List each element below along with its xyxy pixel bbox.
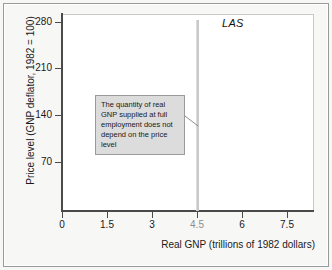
x-axis-tick [242,212,243,218]
figure-panel: 280 210 140 70 0 1.5 3 4.5 6 7.5 Price l… [0,0,332,270]
x-axis-tick-label: 1.5 [87,220,127,230]
y-axis-tick [55,115,61,116]
x-axis-tick [287,212,288,218]
x-axis-tick-label: 3 [132,220,172,230]
x-axis-tick [152,212,153,218]
x-axis-tick-label: 0 [42,220,82,230]
y-axis-tick [55,22,61,23]
x-axis-line [61,210,314,212]
las-curve-label: LAS [222,17,244,29]
callout-box: The quantity of real GNP supplied at ful… [95,95,185,155]
y-axis-tick [55,162,61,163]
callout-leader-line [185,116,198,126]
y-axis-title: Price level (GNP deflator, 1982 = 100) [25,1,36,201]
x-axis-tick-label: 4.5 [177,220,217,230]
y-axis-line [61,13,63,212]
x-axis-tick-label: 7.5 [267,220,307,230]
y-axis-tick [55,68,61,69]
callout-text: The quantity of real GNP supplied at ful… [101,100,179,149]
x-axis-tick [107,212,108,218]
x-axis-tick [62,212,63,218]
x-axis-tick [197,212,198,218]
x-axis-tick-label: 6 [222,220,262,230]
x-axis-title: Real GNP (trillions of 1982 dollars) [100,239,315,250]
